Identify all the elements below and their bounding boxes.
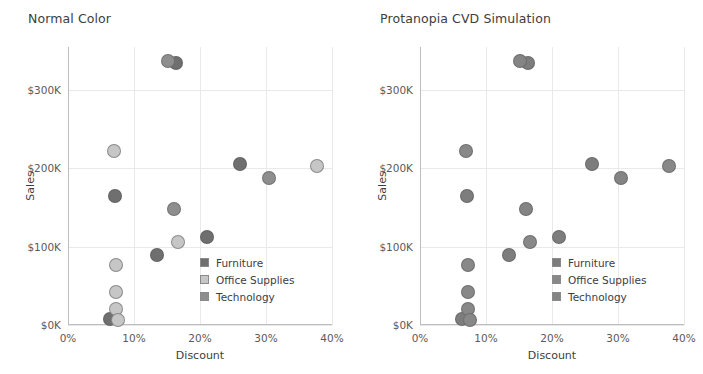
plot-area: $0K$100K$200K$300K0%10%20%30%40%Discount… — [68, 47, 332, 325]
scatter-point[interactable] — [463, 313, 477, 327]
legend-item[interactable]: Technology — [552, 288, 646, 305]
chart-canvas: Normal Color $0K$100K$200K$300K0%10%20%3… — [0, 0, 703, 374]
scatter-point[interactable] — [552, 230, 566, 244]
scatter-point[interactable] — [262, 171, 276, 185]
legend-swatch-icon — [200, 258, 209, 267]
scatter-point[interactable] — [614, 171, 628, 185]
legend-item-label: Technology — [216, 291, 275, 303]
legend: FurnitureOffice SuppliesTechnology — [552, 254, 646, 305]
x-axis-tick-label: 30% — [254, 332, 277, 344]
scatter-point[interactable] — [108, 189, 122, 203]
legend-item-label: Office Supplies — [568, 274, 646, 286]
y-axis-tick-label: $100K — [27, 241, 61, 253]
gridline-horizontal — [68, 168, 332, 169]
x-axis-tick-label: 10% — [474, 332, 497, 344]
x-axis-tick-label: 0% — [60, 332, 77, 344]
y-axis-tick-label: $0K — [393, 319, 413, 331]
legend-item-label: Furniture — [568, 257, 615, 269]
scatter-point[interactable] — [513, 54, 527, 68]
y-axis-tick-label: $0K — [41, 319, 61, 331]
gridline-horizontal — [420, 90, 684, 91]
scatter-point[interactable] — [585, 157, 599, 171]
scatter-point[interactable] — [171, 235, 185, 249]
x-axis-tick-label: 0% — [412, 332, 429, 344]
gridline-vertical — [486, 47, 487, 325]
scatter-point[interactable] — [167, 202, 181, 216]
x-axis-tick-label: 40% — [672, 332, 695, 344]
y-axis-tick-label: $300K — [27, 84, 61, 96]
legend-swatch-icon — [552, 275, 561, 284]
panel-title: Normal Color — [28, 11, 111, 26]
x-axis-tick-label: 10% — [122, 332, 145, 344]
scatter-point[interactable] — [461, 258, 475, 272]
scatter-point[interactable] — [460, 189, 474, 203]
y-axis-tick-label: $300K — [379, 84, 413, 96]
x-axis-tick-label: 20% — [188, 332, 211, 344]
scatter-point[interactable] — [502, 248, 516, 262]
y-axis-title: Sales — [24, 171, 37, 200]
panel-normal-color: Normal Color $0K$100K$200K$300K0%10%20%3… — [0, 0, 351, 374]
gridline-vertical — [332, 47, 333, 325]
gridline-horizontal — [420, 168, 684, 169]
scatter-point[interactable] — [662, 159, 676, 173]
gridline-horizontal — [68, 90, 332, 91]
legend-swatch-icon — [552, 258, 561, 267]
y-axis-title: Sales — [376, 171, 389, 200]
scatter-point[interactable] — [161, 54, 175, 68]
scatter-point[interactable] — [111, 313, 125, 327]
scatter-point[interactable] — [459, 144, 473, 158]
scatter-point[interactable] — [519, 202, 533, 216]
legend: FurnitureOffice SuppliesTechnology — [200, 254, 294, 305]
plot-area: $0K$100K$200K$300K0%10%20%30%40%Discount… — [420, 47, 684, 325]
legend-item[interactable]: Office Supplies — [552, 271, 646, 288]
x-axis-tick-label: 20% — [540, 332, 563, 344]
legend-item-label: Technology — [568, 291, 627, 303]
y-axis-tick-label: $100K — [379, 241, 413, 253]
x-axis-title: Discount — [528, 349, 576, 362]
gridline-horizontal — [420, 247, 684, 248]
legend-swatch-icon — [200, 275, 209, 284]
legend-item-label: Furniture — [216, 257, 263, 269]
panel-protanopia-simulation: Protanopia CVD Simulation $0K$100K$200K$… — [351, 0, 702, 374]
legend-item[interactable]: Furniture — [552, 254, 646, 271]
scatter-point[interactable] — [310, 159, 324, 173]
gridline-vertical — [134, 47, 135, 325]
x-axis-title: Discount — [176, 349, 224, 362]
x-axis-tick-label: 30% — [606, 332, 629, 344]
scatter-point[interactable] — [523, 235, 537, 249]
legend-item[interactable]: Office Supplies — [200, 271, 294, 288]
scatter-point[interactable] — [109, 285, 123, 299]
gridline-vertical — [684, 47, 685, 325]
scatter-point[interactable] — [200, 230, 214, 244]
scatter-point[interactable] — [233, 157, 247, 171]
panel-title: Protanopia CVD Simulation — [380, 11, 551, 26]
legend-swatch-icon — [552, 292, 561, 301]
legend-item[interactable]: Technology — [200, 288, 294, 305]
legend-item[interactable]: Furniture — [200, 254, 294, 271]
y-axis-line — [420, 47, 421, 325]
y-axis-line — [68, 47, 69, 325]
legend-swatch-icon — [200, 292, 209, 301]
x-axis-tick-label: 40% — [320, 332, 343, 344]
scatter-point[interactable] — [150, 248, 164, 262]
scatter-point[interactable] — [107, 144, 121, 158]
scatter-point[interactable] — [461, 285, 475, 299]
gridline-horizontal — [68, 247, 332, 248]
scatter-point[interactable] — [109, 258, 123, 272]
legend-item-label: Office Supplies — [216, 274, 294, 286]
